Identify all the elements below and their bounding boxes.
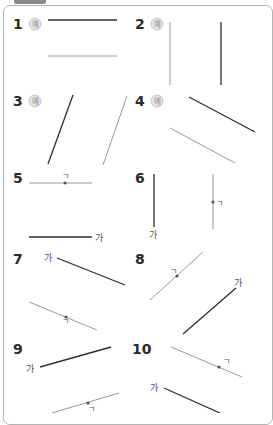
problem-number: 8 bbox=[135, 251, 145, 267]
line-label: 가 bbox=[150, 383, 158, 393]
line-label: 가 bbox=[44, 253, 52, 263]
point-label: ㄱ bbox=[223, 357, 230, 366]
given-line bbox=[57, 258, 125, 285]
problem-number: 1 bbox=[13, 16, 23, 32]
point-icon bbox=[63, 181, 66, 184]
problem-number: 6 bbox=[135, 170, 145, 186]
problem-1: 1예 bbox=[13, 16, 117, 56]
problem-5: 5ㄱ가 bbox=[13, 170, 103, 243]
given-line bbox=[164, 388, 220, 413]
problem-2: 2예 bbox=[135, 16, 221, 85]
given-line bbox=[48, 95, 73, 164]
problem-number: 3 bbox=[13, 93, 23, 109]
problem-number: 7 bbox=[13, 251, 23, 267]
example-badge-label: 예 bbox=[154, 19, 161, 29]
point-icon bbox=[211, 200, 214, 203]
line-label: 가 bbox=[149, 230, 157, 240]
line-label: 가 bbox=[26, 364, 34, 374]
problem-9: 9가ㄱ bbox=[13, 341, 119, 413]
point-label: ㄱ bbox=[216, 199, 223, 208]
problem-6: 6가ㄱ bbox=[135, 170, 223, 240]
problem-number: 4 bbox=[135, 93, 145, 109]
point-label: ㄱ bbox=[62, 317, 69, 326]
example-badge-label: 예 bbox=[32, 96, 39, 106]
point-label: ㄱ bbox=[170, 267, 177, 276]
example-badge-label: 예 bbox=[32, 19, 39, 29]
problem-number: 10 bbox=[132, 341, 152, 357]
problem-3: 3예 bbox=[13, 93, 127, 165]
point-label: ㄱ bbox=[62, 172, 69, 181]
given-line bbox=[183, 288, 236, 334]
problem-number: 9 bbox=[13, 341, 23, 357]
point-icon bbox=[217, 365, 220, 368]
problem-number: 2 bbox=[135, 16, 145, 32]
line-label: 가 bbox=[95, 233, 103, 243]
point-label: ㄱ bbox=[88, 405, 95, 413]
problem-7: 7가ㄱ bbox=[13, 251, 125, 330]
line-label: 가 bbox=[234, 278, 242, 288]
problem-4: 4예 bbox=[135, 93, 255, 163]
answer-line bbox=[103, 96, 127, 165]
problem-8: 8ㄱ가 bbox=[135, 251, 242, 334]
answer-line bbox=[170, 128, 235, 163]
answer-line bbox=[171, 347, 242, 377]
answer-line bbox=[52, 393, 119, 413]
problem-number: 5 bbox=[13, 170, 23, 186]
problem-10: 10ㄱ가 bbox=[132, 341, 242, 413]
given-line bbox=[40, 347, 111, 367]
example-badge-label: 예 bbox=[154, 96, 161, 106]
given-line bbox=[189, 97, 255, 132]
